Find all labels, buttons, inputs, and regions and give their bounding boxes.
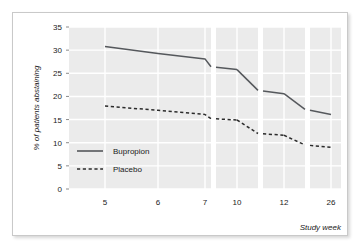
y-tick-label-10: 10 bbox=[53, 139, 62, 148]
y-tick-label-30: 30 bbox=[53, 46, 62, 55]
x-tick-label-7: 7 bbox=[203, 198, 208, 207]
x-tick-label-26: 26 bbox=[327, 198, 336, 207]
y-axis-title: % of patients abstaining bbox=[32, 65, 41, 150]
y-tick-label-35: 35 bbox=[53, 23, 62, 32]
y-axis-tick-labels: 35302520151050 bbox=[53, 23, 62, 194]
x-axis-title: Study week bbox=[300, 223, 342, 232]
legend-label-bupropion[interactable]: Bupropion bbox=[113, 147, 149, 156]
chart-figure: 35302520151050 567101226 BupropionPlaceb… bbox=[12, 12, 348, 236]
x-tick-label-6: 6 bbox=[156, 198, 161, 207]
y-axis-tick-marks bbox=[66, 27, 69, 189]
x-tick-label-12: 12 bbox=[280, 198, 289, 207]
y-tick-label-5: 5 bbox=[58, 162, 63, 171]
x-axis-tick-labels: 567101226 bbox=[103, 198, 336, 207]
y-tick-label-0: 0 bbox=[58, 185, 63, 194]
line-chart: 35302520151050 567101226 BupropionPlaceb… bbox=[13, 13, 347, 235]
x-tick-label-10: 10 bbox=[233, 198, 242, 207]
y-tick-label-20: 20 bbox=[53, 92, 62, 101]
x-tick-label-5: 5 bbox=[103, 198, 108, 207]
y-tick-label-25: 25 bbox=[53, 69, 62, 78]
plot-panel-3 bbox=[310, 27, 341, 189]
y-tick-label-15: 15 bbox=[53, 116, 62, 125]
legend-label-placebo[interactable]: Placebo bbox=[113, 165, 142, 174]
